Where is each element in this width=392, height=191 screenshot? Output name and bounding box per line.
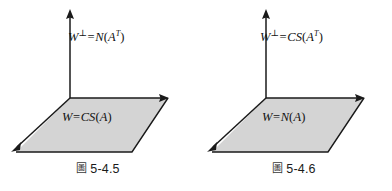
label-w-perp: W⊥=CS(AT) [260,31,323,44]
plane-w-face [212,98,364,152]
figure-5-4-5: W⊥=N(AT) W=CS(A) 圖5-4.5 [0,0,196,191]
label-w-plane-close-paren: ) [301,110,305,124]
label-w-perp-subspace: W [260,30,271,44]
perp-symbol: ⊥ [271,28,280,38]
label-w-plane-equals: = [273,110,281,124]
label-w-plane-equals: = [73,110,81,124]
label-w-perp-operator: N [95,30,103,44]
figure-cjk-glyph-icon: 圖 [76,163,87,175]
label-w-plane-subspace: W [62,110,73,124]
label-w-perp: W⊥=N(AT) [68,31,125,44]
label-w-plane: W=N(A) [262,111,305,124]
figure-cjk-glyph-icon: 圖 [272,163,283,175]
perp-symbol: ⊥ [79,28,88,38]
figure-5-4-6-diagram [196,0,392,162]
label-w-plane-close-paren: ) [107,110,111,124]
label-w-plane-argument: A [293,110,301,124]
label-w-perp-argument: A [108,30,116,44]
label-w-perp-subspace: W [68,30,79,44]
axis-vertical-arrowhead [262,9,270,19]
figure-board: W⊥=N(AT) W=CS(A) 圖5-4.5 W⊥=CS(AT) W=N(A) [0,0,392,191]
label-w-perp-operator: CS [287,30,302,44]
label-w-plane-operator: CS [81,110,96,124]
axis-vertical-arrowhead [66,9,74,19]
figure-5-4-5-caption: 圖5-4.5 [0,163,196,177]
label-w-plane: W=CS(A) [62,111,112,124]
label-w-plane-subspace: W [262,110,273,124]
figure-caption-number: 5-4.5 [90,163,120,177]
label-w-perp-close-paren: ) [319,30,323,44]
label-w-perp-argument: A [306,30,314,44]
label-w-plane-operator: N [281,110,289,124]
plane-w-face [16,98,168,152]
label-w-perp-close-paren: ) [120,30,124,44]
figure-5-4-5-diagram [0,0,196,162]
figure-5-4-6-caption: 圖5-4.6 [196,163,392,177]
figure-5-4-6: W⊥=CS(AT) W=N(A) 圖5-4.6 [196,0,392,191]
figure-caption-number: 5-4.6 [286,163,316,177]
